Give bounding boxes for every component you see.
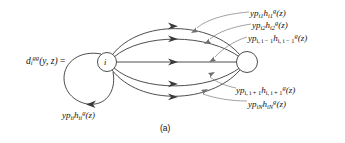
equals-sign: = [60,56,65,66]
edge-label-2: ypi2hi2g(z) [252,20,288,32]
edge-label-3-arg: (z) [298,33,308,43]
self-loop-label: ypiihiig(z) [62,110,95,122]
self-loop-label-arg: (z) [85,110,95,120]
edge-label-4: ypi, i + 1hi, i + 1g(z) [236,85,295,97]
figure-caption: (a) [160,123,170,133]
signal-flow-graph-figure: digg(y, z) = i ypi1hi1g(z) ypi2hi2g(z) y… [0,0,345,143]
lhs-arguments: (y, z) [39,56,57,66]
leader-arrowhead-5 [201,89,208,95]
edge-label-4-coef: yp [236,85,245,95]
leader-line-4 [210,77,236,88]
graph-canvas [0,0,345,143]
edge-label-3-coef: yp [248,33,257,43]
leader-arrowhead-4 [208,72,215,78]
node-right [237,52,258,73]
edge-arc-2 [114,39,241,58]
edge-arrowheads [168,23,178,101]
edge-label-1: ypi1hi1g(z) [250,8,286,20]
edge-label-3-coef-sub: i, i − 1 [257,37,274,44]
edge-label-2-arg: (z) [278,20,288,30]
edge-label-1-coef: yp [250,8,259,18]
node-i-label: i [104,57,106,67]
self-loop-label-coef: yp [62,110,71,120]
edge-label-2-coef: yp [252,20,261,30]
edge-label-4-coef-sub: i, i + 1 [245,89,262,96]
edge-label-4-arg: (z) [286,85,296,95]
leader-arrowhead-3 [209,57,216,63]
edge-arc-4 [114,67,241,86]
equation-lhs: digg(y, z) = [26,55,65,67]
arrowhead-edge-5 [168,94,178,101]
node-i [98,53,117,72]
edge-label-4-h-sub: i, i + 1 [266,89,283,96]
edge-label-5-arg: (z) [276,99,286,109]
edge-label-3-h-sub: i, i − 1 [278,37,295,44]
edge-label-5: ypiNhiNg(z) [248,99,286,111]
edge-label-5-coef: yp [248,99,257,109]
leader-line-2 [210,24,251,39]
edge-label-1-arg: (z) [276,8,286,18]
edge-label-3: ypi, i − 1hi, i − 1g(z) [248,33,307,45]
